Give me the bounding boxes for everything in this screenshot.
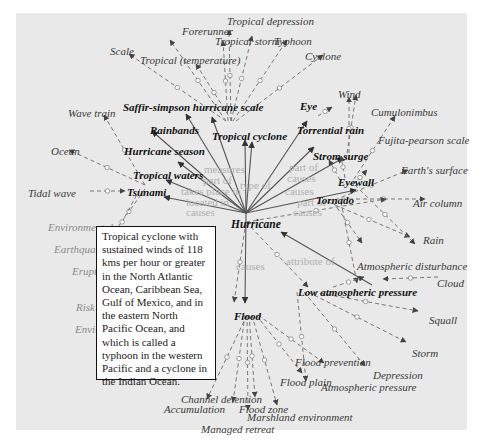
- relation-label: part of: [203, 175, 232, 185]
- relation-label: causes: [287, 173, 316, 183]
- relation-label: causes: [236, 261, 265, 271]
- relation-label: causes: [186, 207, 215, 217]
- node-wave-train[interactable]: Wave train: [68, 107, 116, 119]
- definition-popup: Tropical cyclone with sustained winds of…: [96, 226, 216, 380]
- node-strom-surge[interactable]: Strom surge: [313, 150, 368, 162]
- node-scale[interactable]: Scale: [110, 45, 134, 57]
- node-typhoon[interactable]: Typhoon: [274, 35, 312, 47]
- node-cyclone[interactable]: Cyclone: [305, 50, 341, 62]
- node-atmospheric-pressure[interactable]: Atmospheric pressure: [321, 381, 416, 393]
- node-depression[interactable]: Depression: [373, 369, 423, 381]
- node-storm[interactable]: Storm: [412, 347, 438, 359]
- node-tropical-cyclone[interactable]: Tropical cyclone: [212, 130, 287, 142]
- node-eye[interactable]: Eye: [300, 100, 317, 112]
- relation-label: part of: [289, 162, 318, 172]
- relation-label: measures: [204, 164, 245, 174]
- node-accumulation[interactable]: Accumulation: [164, 403, 225, 415]
- relation-label: type of: [240, 180, 271, 190]
- node-tropical-storm[interactable]: Tropical storm: [215, 35, 280, 47]
- node-torrential-rain[interactable]: Torrential rain: [297, 124, 364, 136]
- node-managed-retreat[interactable]: Managed retreat: [201, 423, 274, 435]
- node-tropical-depression[interactable]: Tropical depression: [227, 15, 314, 27]
- node-atmospheric-disturbance[interactable]: Atmospheric disturbance: [357, 260, 467, 272]
- node-tsunami[interactable]: Tsunami: [127, 186, 166, 198]
- node-risk[interactable]: Risk: [76, 301, 95, 313]
- node-fujita-pearson[interactable]: Fujita-pearson scale: [378, 134, 469, 146]
- relation-label: causes: [293, 207, 322, 217]
- node-hurricane-season[interactable]: Hurricane season: [124, 145, 205, 157]
- node-flood[interactable]: Flood: [234, 310, 261, 322]
- node-eyewall[interactable]: Eyewall: [338, 176, 374, 188]
- relation-label: causes: [285, 186, 314, 196]
- node-air-column[interactable]: Air column: [413, 197, 462, 209]
- node-tropical-waters[interactable]: Tropical waters: [133, 169, 203, 181]
- node-marshland-environment[interactable]: Marshland environment: [247, 411, 353, 423]
- node-tornado[interactable]: Tornado: [316, 194, 354, 206]
- node-cumulonimbus[interactable]: Cumulonimbus: [371, 106, 438, 118]
- node-earths-surface[interactable]: Earth's surface: [401, 164, 468, 176]
- relation-label: attribute of: [286, 256, 335, 266]
- definition-text: Tropical cyclone with sustained winds of…: [102, 230, 207, 387]
- node-rain[interactable]: Rain: [423, 234, 444, 246]
- node-cloud[interactable]: Cloud: [437, 277, 464, 289]
- node-squall[interactable]: Squall: [429, 314, 457, 326]
- relation-label: takes place in: [181, 186, 241, 196]
- node-tropical-temperature[interactable]: Tropical (temperature): [140, 54, 240, 66]
- node-low-atmospheric-pressure[interactable]: Low atmospheric pressure: [298, 286, 417, 298]
- node-hurricane[interactable]: Hurricane: [231, 218, 281, 230]
- node-wind[interactable]: Wind: [338, 88, 361, 100]
- node-flood-prevention[interactable]: Flood prevention: [295, 356, 371, 368]
- node-tidal-wave[interactable]: Tidal wave: [28, 187, 76, 199]
- node-ocean[interactable]: Ocean: [51, 145, 80, 157]
- node-saffir-simpson[interactable]: Saffir-simpson hurricane scale: [123, 101, 263, 113]
- node-rainbands[interactable]: Rainbands: [150, 124, 199, 136]
